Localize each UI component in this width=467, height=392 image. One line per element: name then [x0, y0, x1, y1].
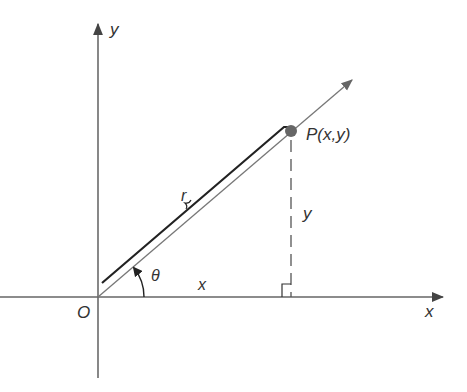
- y-axis-label: y: [109, 20, 120, 39]
- radius-label: r: [181, 187, 187, 204]
- y-leg-label: y: [302, 204, 313, 223]
- radius-segment: [102, 127, 292, 283]
- origin-label: O: [77, 303, 90, 322]
- unit-angle-diagram: y x O P(x,y) r θ x y: [0, 0, 467, 392]
- right-angle-marker: [282, 284, 291, 297]
- terminal-ray: [98, 80, 352, 297]
- angle-label: θ: [151, 267, 160, 284]
- x-leg-label: x: [197, 276, 207, 293]
- x-axis-label: x: [424, 302, 434, 321]
- point-label: P(x,y): [306, 125, 350, 144]
- point-p: [285, 125, 297, 137]
- theta-arc: [134, 268, 144, 297]
